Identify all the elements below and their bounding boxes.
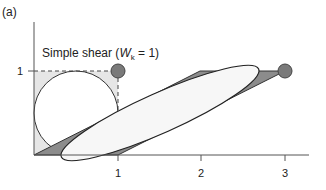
panel-label: (a) <box>2 5 17 19</box>
x-tick-label-2: 2 <box>198 167 204 179</box>
marker-initial <box>111 64 125 78</box>
y-tick-label-1: 1 <box>17 65 23 77</box>
shear-annotation: Simple shear (Wk = 1) <box>42 46 159 62</box>
marker-sheared <box>278 64 292 78</box>
simple-shear-diagram: (a) 1 2 3 1 Simple shear (Wk = 1) <box>0 0 326 190</box>
x-tick-label-3: 3 <box>282 167 288 179</box>
x-tick-label-1: 1 <box>115 167 121 179</box>
